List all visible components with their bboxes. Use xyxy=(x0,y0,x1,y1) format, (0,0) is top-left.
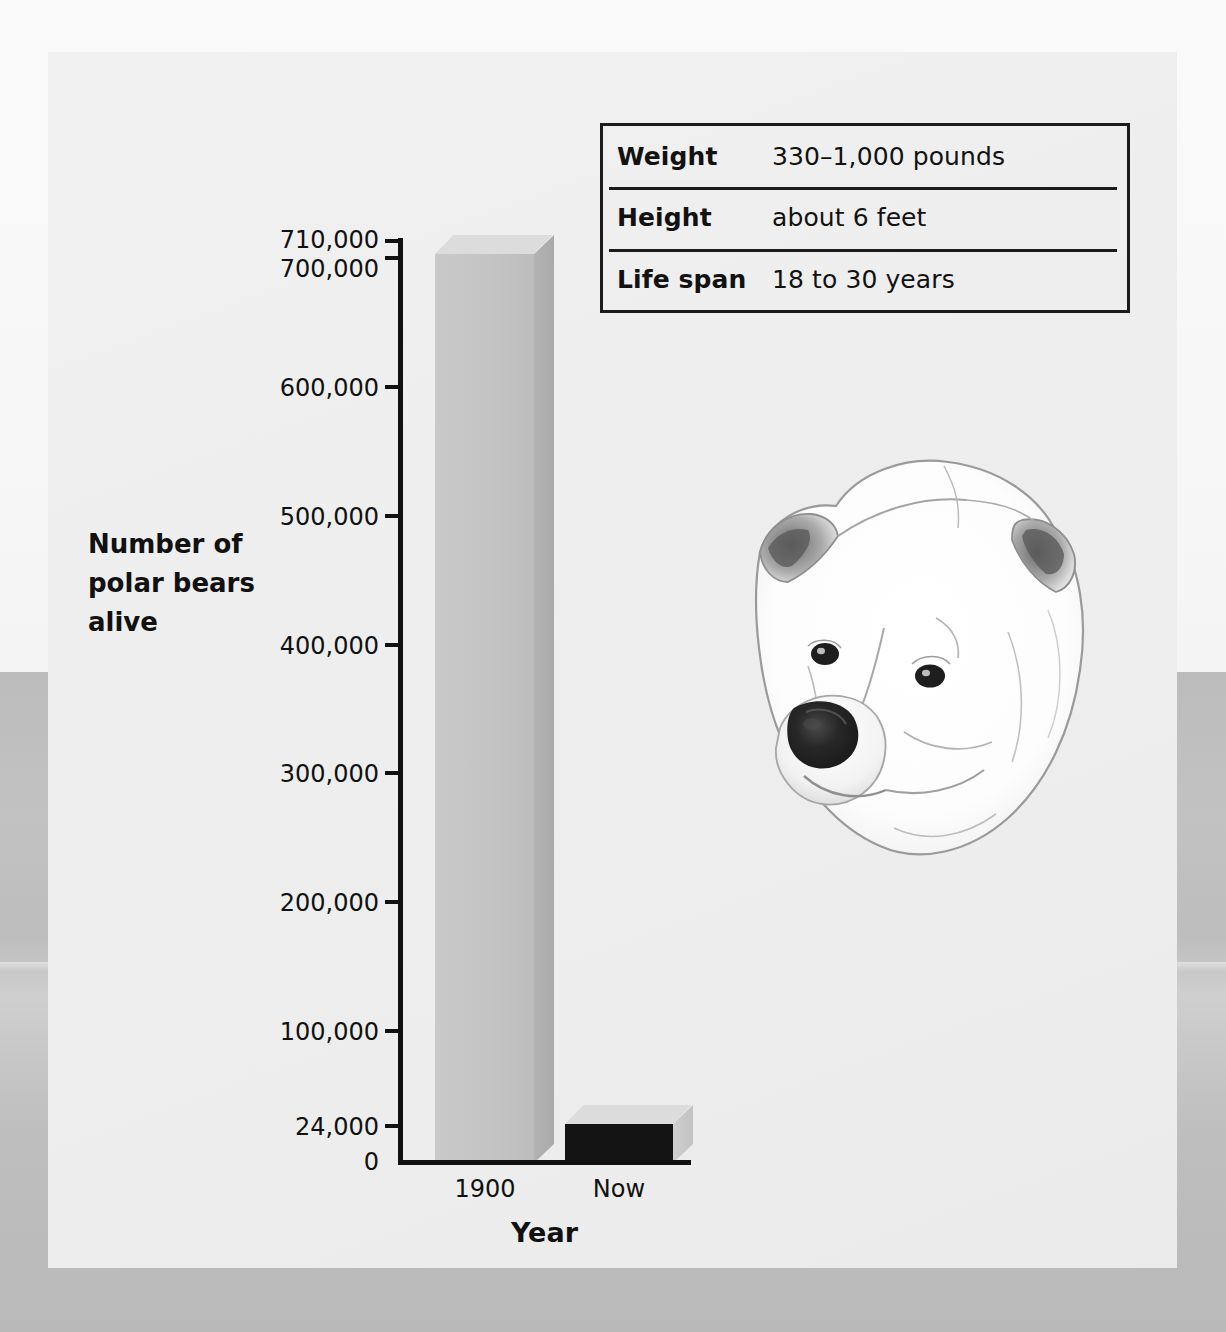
y-tick-label-100000: 100,000 xyxy=(280,1020,379,1044)
y-tick-label-600000: 600,000 xyxy=(280,376,379,400)
y-axis-tick-710000 xyxy=(385,239,399,243)
y-axis-tick-100000 xyxy=(385,1029,399,1033)
bar-now-top-face xyxy=(565,1105,691,1124)
y-tick-label-500000: 500,000 xyxy=(280,505,379,529)
y-axis-tick-400000 xyxy=(385,643,399,647)
polar-bear-illustration xyxy=(708,432,1128,872)
y-tick-label-400000: 400,000 xyxy=(280,634,379,658)
y-axis-tick-300000 xyxy=(385,771,399,775)
y-tick-label-300000: 300,000 xyxy=(280,762,379,786)
chart-card: Weight 330–1,000 pounds Height about 6 f… xyxy=(48,52,1177,1268)
y-axis-tick-700000 xyxy=(385,256,399,260)
y-axis-tick-labels: 710,000 700,000 600,000 500,000 400,000 … xyxy=(48,52,379,1268)
bar-now xyxy=(565,1124,673,1163)
x-tick-label-1900: 1900 xyxy=(430,1175,540,1203)
bar-1900-side-face xyxy=(534,235,554,1163)
x-tick-label-now: Now xyxy=(564,1175,674,1203)
y-tick-label-710000: 710,000 xyxy=(280,228,379,252)
y-tick-label-700000: 700,000 xyxy=(280,257,379,281)
y-axis-tick-24000 xyxy=(385,1124,399,1128)
y-axis-line xyxy=(398,238,403,1165)
x-axis-line xyxy=(398,1160,691,1165)
bar-1900-top-face xyxy=(435,235,552,254)
x-axis-title: Year xyxy=(398,1217,691,1248)
y-axis-tick-600000 xyxy=(385,385,399,389)
y-axis-tick-500000 xyxy=(385,514,399,518)
y-tick-label-0: 0 xyxy=(364,1150,379,1174)
figure-root: Weight 330–1,000 pounds Height about 6 f… xyxy=(0,0,1226,1332)
y-axis-tick-200000 xyxy=(385,900,399,904)
bar-1900 xyxy=(435,254,534,1163)
y-tick-label-200000: 200,000 xyxy=(280,891,379,915)
y-tick-label-24000: 24,000 xyxy=(295,1115,379,1139)
